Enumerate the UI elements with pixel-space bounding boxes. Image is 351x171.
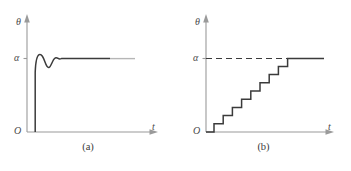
panel-b-y-axis-arrow — [203, 14, 209, 23]
panel-b-alpha-label: α — [193, 53, 198, 63]
chart-panel-b: θ α O t (b) — [176, 0, 351, 171]
panel-a-y-axis-label: θ — [16, 17, 21, 27]
panel-b-origin-label: O — [193, 126, 200, 136]
figure-container: θ α O t (a) θ α O t (b) — [0, 0, 351, 171]
panel-b-caption: (b) — [176, 141, 351, 152]
panel-b-x-axis-label: t — [328, 122, 331, 132]
panel-a-response-curve — [35, 54, 110, 132]
panel-a-caption: (a) — [0, 141, 176, 152]
panel-a-x-axis-label: t — [152, 122, 155, 132]
panel-a-y-axis-arrow — [24, 14, 30, 23]
panel-a-alpha-label: α — [14, 53, 19, 63]
panel-a-origin-label: O — [14, 126, 21, 136]
chart-panel-a: θ α O t (a) — [0, 0, 176, 171]
panel-b-y-axis-label: θ — [195, 17, 200, 27]
panel-b-staircase-curve — [206, 59, 324, 133]
